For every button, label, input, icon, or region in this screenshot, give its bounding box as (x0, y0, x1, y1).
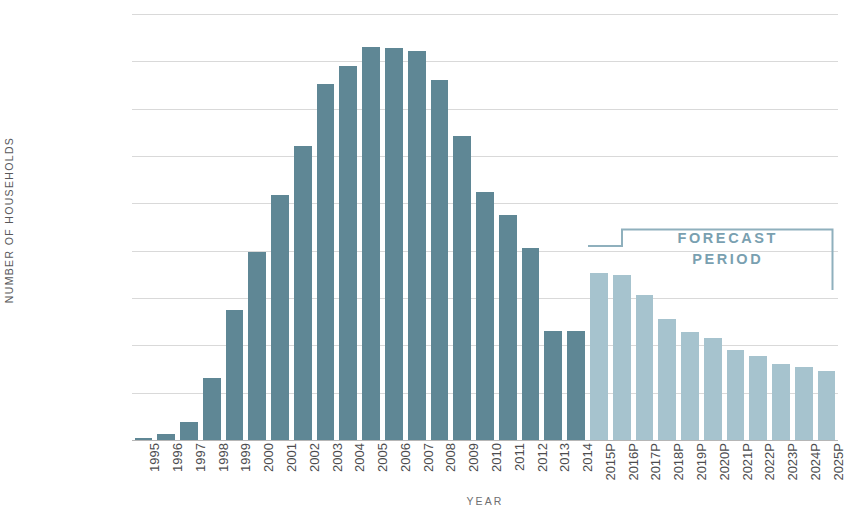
x-tick-label: 2010 (490, 443, 503, 503)
bar-2014 (567, 331, 585, 440)
bar-2022P (749, 356, 767, 440)
x-tick-label: 2009 (467, 443, 480, 503)
bar-2001 (271, 195, 289, 440)
x-tick-label: 1998 (217, 443, 230, 503)
x-tick-label: 2012 (536, 443, 549, 503)
x-tick-label: 1997 (194, 443, 207, 503)
x-tick-label: 1996 (171, 443, 184, 503)
bar-2021P (727, 350, 745, 440)
x-tick-label: 2018P (672, 443, 685, 503)
x-tick-label: 2015P (604, 443, 617, 503)
gridline (132, 440, 838, 441)
x-tick-label: 2021P (741, 443, 754, 503)
bar-2019P (681, 332, 699, 440)
x-tick-label: 2005 (376, 443, 389, 503)
x-tick-label: 2020P (718, 443, 731, 503)
x-tick-label: 2002 (308, 443, 321, 503)
bar-1995 (135, 438, 153, 440)
x-tick-label: 2017P (649, 443, 662, 503)
bar-2007 (408, 51, 426, 440)
bar-2013 (544, 331, 562, 440)
x-tick-label: 2014 (581, 443, 594, 503)
bar-2010 (476, 192, 494, 441)
x-tick-label: 2022P (763, 443, 776, 503)
bar-2024P (795, 367, 813, 440)
bar-2003 (317, 84, 335, 440)
x-tick-label: 2023P (786, 443, 799, 503)
bar-2006 (385, 48, 403, 440)
bar-2023P (772, 364, 790, 440)
x-tick-label: 2024P (809, 443, 822, 503)
x-tick-label: 2000 (262, 443, 275, 503)
bar-1999 (226, 310, 244, 440)
bar-2002 (294, 146, 312, 440)
bar-2017P (636, 295, 654, 440)
bar-1997 (180, 422, 198, 440)
bar-2016P (613, 275, 631, 440)
bar-2025P (818, 371, 836, 440)
x-tick-label: 2016P (627, 443, 640, 503)
bar-2020P (704, 338, 722, 440)
bar-2005 (362, 47, 380, 440)
x-tick-label: 2004 (353, 443, 366, 503)
x-tick-label: 2001 (285, 443, 298, 503)
x-axis-ticks: 1995199619971998199920002001200220032004… (132, 443, 838, 491)
x-tick-label: 2025P (832, 443, 844, 503)
x-tick-label: 2007 (422, 443, 435, 503)
x-tick-label: 2019P (695, 443, 708, 503)
bar-2008 (431, 80, 449, 440)
y-axis-title: NUMBER OF HOUSEHOLDS (0, 0, 18, 440)
plot-area (132, 14, 838, 440)
bar-2004 (339, 66, 357, 440)
bar-2009 (453, 136, 471, 440)
bar-chart: NUMBER OF HOUSEHOLDS 0200,000400,000600,… (0, 0, 844, 519)
x-tick-label: 1999 (239, 443, 252, 503)
bars (132, 14, 838, 440)
bar-2015P (590, 273, 608, 440)
bar-2018P (658, 319, 676, 440)
x-tick-label: 2006 (399, 443, 412, 503)
x-axis-title: YEAR (132, 495, 838, 507)
bar-1998 (203, 378, 221, 440)
x-tick-label: 2011 (513, 443, 526, 503)
x-tick-label: 2003 (331, 443, 344, 503)
bar-2000 (248, 252, 266, 440)
x-tick-label: 2008 (444, 443, 457, 503)
x-tick-label: 2013 (558, 443, 571, 503)
x-tick-label: 1995 (148, 443, 161, 503)
bar-2012 (522, 248, 540, 440)
bar-2011 (499, 215, 517, 440)
bar-1996 (157, 434, 175, 440)
